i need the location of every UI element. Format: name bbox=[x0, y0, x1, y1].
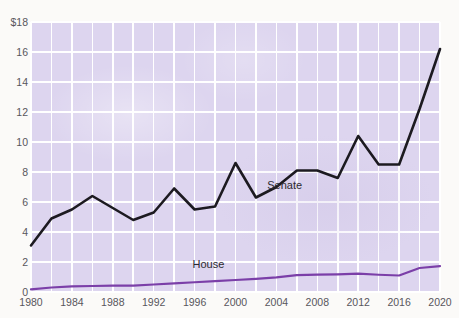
series-label-senate: Senate bbox=[267, 180, 302, 191]
line-chart: 0246810121416$18198019841988199219962000… bbox=[0, 0, 459, 318]
series-line-senate bbox=[31, 49, 440, 246]
series-label-house: House bbox=[193, 259, 225, 270]
series-line-house bbox=[31, 266, 440, 289]
series-lines bbox=[0, 0, 459, 318]
